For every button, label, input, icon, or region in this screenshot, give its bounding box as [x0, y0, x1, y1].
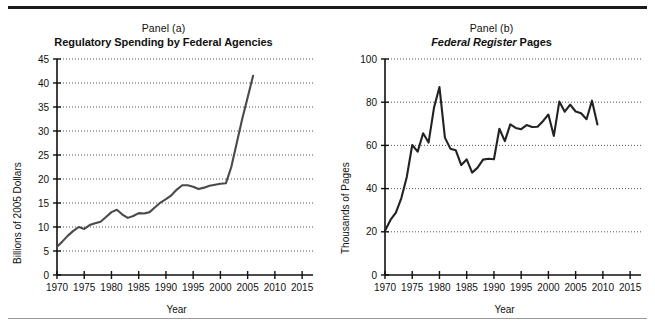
panel-b-plot: 0204060801001970197519801985199019952000…: [328, 14, 655, 314]
panel-a-x-tick-label: 1995: [182, 282, 205, 293]
panel-a-x-tick-label: 1975: [73, 282, 96, 293]
panel-b-x-tick-label: 1995: [510, 282, 533, 293]
panel-b-x-tick-label: 2000: [537, 282, 560, 293]
panel-a-y-tick-label: 10: [38, 222, 50, 233]
panel-a-x-tick-label: 2010: [264, 282, 287, 293]
panel-a-y-tick-label: 15: [38, 198, 50, 209]
panel-a-x-tick-label: 2005: [237, 282, 260, 293]
panel-b-x-tick-label: 1980: [428, 282, 451, 293]
panel-b-x-axis-label-wrap: Year: [328, 304, 655, 315]
panel-a-data-line: [57, 76, 253, 247]
panel-b-y-tick-label: 60: [366, 140, 378, 151]
panel-a-x-tick-label: 2000: [209, 282, 232, 293]
panel-b-y-tick-label: 80: [366, 97, 378, 108]
panel-a-x-tick-label: 1970: [46, 282, 69, 293]
bottom-rule-divider: [8, 318, 647, 319]
panel-a-y-tick-label: 0: [43, 270, 49, 281]
panel-b-x-tick-label: 1985: [456, 282, 479, 293]
panel-b-x-axis-label: Year: [494, 304, 514, 315]
panel-a-y-tick-label: 5: [43, 246, 49, 257]
panel-b: Panel (b) Federal Register Pages Thousan…: [328, 14, 655, 314]
panel-a-y-tick-label: 20: [38, 174, 50, 185]
panel-b-x-tick-label: 2015: [619, 282, 642, 293]
panel-a-x-axis-label: Year: [166, 304, 186, 315]
panel-a: Panel (a) Regulatory Spending by Federal…: [0, 14, 327, 314]
panel-b-x-tick-label: 1970: [374, 282, 397, 293]
panel-b-x-tick-label: 1990: [483, 282, 506, 293]
panel-a-x-tick-label: 1990: [155, 282, 178, 293]
panel-b-y-tick-label: 0: [371, 270, 377, 281]
panel-a-y-tick-label: 45: [38, 54, 50, 65]
panel-b-y-tick-label: 40: [366, 183, 378, 194]
panel-a-x-tick-label: 2015: [291, 282, 314, 293]
panel-b-y-tick-label: 20: [366, 226, 378, 237]
top-rule-divider: [8, 6, 647, 9]
panel-a-y-tick-label: 30: [38, 126, 50, 137]
panel-b-x-tick-label: 2010: [592, 282, 615, 293]
panel-b-x-tick-label: 1975: [401, 282, 424, 293]
panel-a-y-tick-label: 25: [38, 150, 50, 161]
panel-a-x-tick-label: 1980: [100, 282, 123, 293]
panel-b-x-tick-label: 2005: [565, 282, 588, 293]
panel-a-plot: 0510152025303540451970197519801985199019…: [0, 14, 327, 314]
figure-container: Panel (a) Regulatory Spending by Federal…: [0, 0, 655, 326]
panel-b-data-line: [385, 87, 597, 231]
panel-a-x-tick-label: 1985: [128, 282, 151, 293]
panel-a-y-tick-label: 35: [38, 102, 50, 113]
panel-b-y-tick-label: 100: [360, 54, 377, 65]
panel-a-y-tick-label: 40: [38, 78, 50, 89]
panel-a-x-axis-label-wrap: Year: [0, 304, 327, 315]
